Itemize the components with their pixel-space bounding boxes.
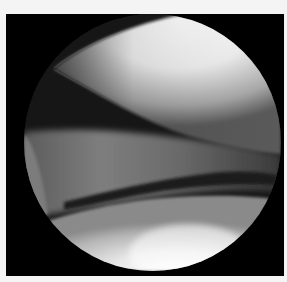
endoscope-frame	[6, 14, 284, 276]
arthroscopy-scene	[24, 14, 281, 271]
arthroscopic-viewport	[24, 14, 281, 271]
